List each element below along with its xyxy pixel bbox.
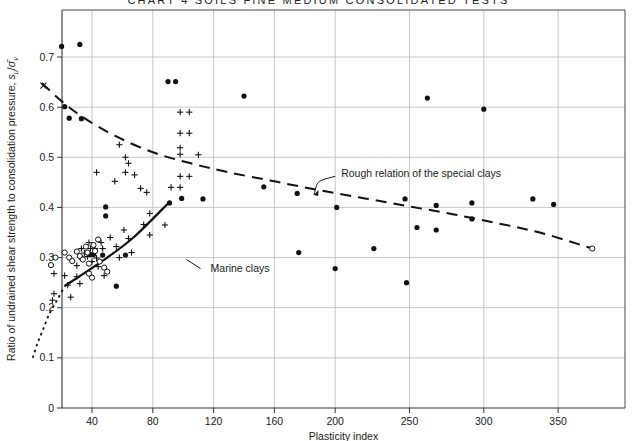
data-point: [77, 42, 82, 47]
series-curve-endpoint: [590, 246, 595, 251]
plot-frame: [62, 10, 625, 408]
data-point: [105, 269, 110, 274]
data-point: [107, 234, 113, 240]
data-point: [77, 281, 83, 287]
data-point: [131, 172, 137, 178]
x-tick-label: 160: [266, 415, 284, 427]
annotation-marine-clays: Marine clays: [187, 260, 270, 274]
x-tick-labels: 4080120160200250300350: [86, 415, 567, 427]
x-tick-label: 200: [326, 415, 344, 427]
data-point: [200, 196, 205, 201]
data-point: [51, 271, 57, 277]
data-point: [551, 202, 556, 207]
data-point: [167, 200, 172, 205]
data-point: [173, 79, 178, 84]
data-point: [62, 104, 67, 109]
y-axis-title: Ratio of undrained shear strength to con…: [5, 56, 20, 361]
data-point: [241, 94, 246, 99]
data-point: [97, 259, 102, 264]
data-point: [165, 79, 170, 84]
data-point: [177, 151, 183, 157]
data-point: [481, 107, 486, 112]
series-filled-circles: [59, 42, 556, 289]
data-point: [48, 262, 53, 267]
data-point: [177, 173, 183, 179]
data-point: [530, 196, 535, 201]
data-point: [425, 96, 430, 101]
curve-rough-relation-dashed: [42, 83, 592, 248]
data-point: [103, 204, 108, 209]
data-point: [590, 246, 595, 251]
data-point: [122, 169, 128, 175]
data-point: [186, 130, 192, 136]
series-plus-markers: [49, 109, 201, 303]
data-point: [59, 44, 64, 49]
data-point: [116, 142, 122, 148]
gridlines: [62, 10, 625, 408]
data-point: [434, 203, 439, 208]
y-tick-label: 0.2: [39, 301, 54, 313]
x-tick-label: 250: [401, 415, 419, 427]
annotation-leader: [187, 260, 201, 269]
data-point: [469, 216, 474, 221]
axis-titles: Plasticity indexRatio of undrained shear…: [5, 56, 379, 441]
data-points: [40, 42, 595, 303]
data-point: [68, 294, 74, 300]
data-point: [295, 191, 300, 196]
data-point: [144, 189, 150, 195]
data-point: [168, 184, 174, 190]
data-point: [179, 196, 184, 201]
y-tick-label: 0.6: [39, 101, 54, 113]
y-axis-title-text: Ratio of undrained shear strength to con…: [5, 56, 20, 361]
data-point: [434, 227, 439, 232]
data-point: [121, 227, 127, 233]
data-point: [128, 249, 134, 255]
x-tick-label: 40: [86, 415, 98, 427]
data-point: [93, 169, 99, 175]
data-point: [114, 284, 119, 289]
y-tick-label: 0.1: [39, 351, 54, 363]
data-point: [62, 250, 67, 255]
data-point: [85, 250, 90, 255]
data-point: [177, 184, 183, 190]
x-tick-label: 120: [205, 415, 223, 427]
data-point: [95, 237, 100, 242]
y-tick-label: 0: [48, 402, 54, 414]
y-tick-label: 0.4: [39, 201, 54, 213]
data-point: [67, 116, 72, 121]
data-point: [125, 160, 131, 166]
data-point: [333, 266, 338, 271]
y-tick-labels: 00.10.20.30.40.50.60.7: [39, 51, 54, 414]
data-point: [116, 254, 122, 260]
data-point: [469, 200, 474, 205]
data-point: [79, 116, 84, 121]
data-point: [51, 291, 57, 297]
data-point: [261, 184, 266, 189]
data-point: [80, 257, 85, 262]
data-point: [177, 130, 183, 136]
y-tick-label: 0.3: [39, 251, 54, 263]
data-point: [334, 205, 339, 210]
data-point: [162, 222, 168, 228]
data-point: [404, 280, 409, 285]
data-point: [74, 262, 80, 268]
data-point: [100, 245, 106, 251]
x-tick-label: 350: [549, 415, 567, 427]
x-tick-label: 80: [147, 415, 159, 427]
data-point: [103, 213, 108, 218]
curve-marine-clays-dotted-extension: [33, 286, 65, 358]
data-point: [186, 109, 192, 115]
x-axis-title: Plasticity index: [309, 430, 379, 441]
data-point: [177, 109, 183, 115]
data-point: [92, 248, 97, 253]
data-point: [371, 246, 376, 251]
data-point: [296, 250, 301, 255]
data-point: [414, 225, 419, 230]
scatter-chart: Marine claysRough relation of the specia…: [0, 0, 637, 441]
data-point: [147, 210, 153, 216]
data-point: [86, 261, 91, 266]
y-tick-label: 0.5: [39, 151, 54, 163]
data-point: [70, 258, 75, 263]
trend-curves: [33, 83, 593, 358]
y-tick-label: 0.7: [39, 51, 54, 63]
